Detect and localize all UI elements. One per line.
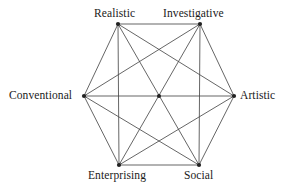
riasec-hexagon-diagram: Realistic Investigative Artistic Social … <box>0 0 288 190</box>
vertex-node-investigative[interactable] <box>198 22 202 26</box>
vertex-node-realistic[interactable] <box>116 22 120 26</box>
edge-realistic-enterprising <box>118 24 119 165</box>
vertex-node-artistic[interactable] <box>232 94 236 98</box>
vertex-node-social[interactable] <box>197 163 201 167</box>
edge-investigative-social <box>199 24 200 165</box>
vertex-node-enterprising[interactable] <box>117 163 121 167</box>
vertex-label-realistic: Realistic <box>94 8 135 20</box>
vertex-label-conventional: Conventional <box>9 90 72 102</box>
vertex-label-social: Social <box>184 170 213 182</box>
vertex-node-conventional[interactable] <box>82 94 86 98</box>
center-node <box>157 94 161 98</box>
nodes-group <box>82 22 236 167</box>
vertex-label-investigative: Investigative <box>163 8 224 20</box>
vertex-label-artistic: Artistic <box>240 90 275 102</box>
vertex-label-enterprising: Enterprising <box>88 170 146 182</box>
